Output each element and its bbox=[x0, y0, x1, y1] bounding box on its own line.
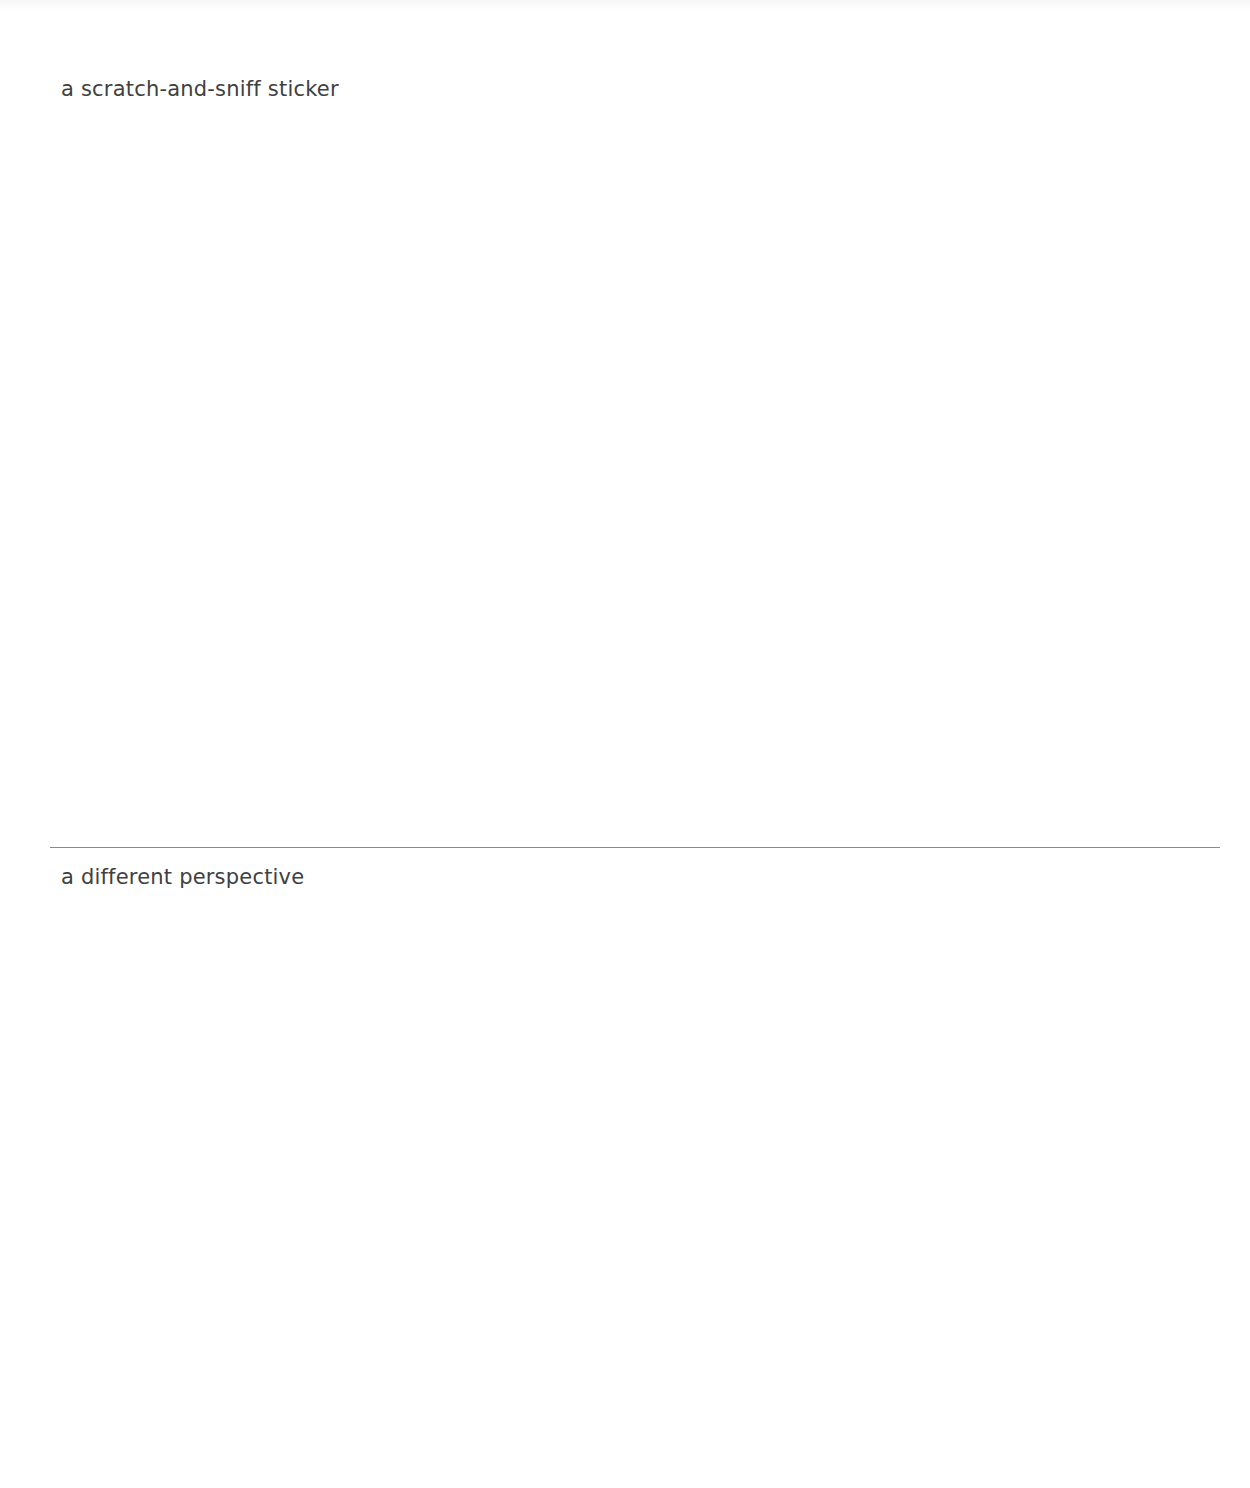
card-different-perspective: a different perspective bbox=[50, 849, 1220, 1488]
card-label: a different perspective bbox=[61, 867, 304, 888]
card-scratch-and-sniff: a scratch-and-sniff sticker bbox=[50, 0, 1220, 848]
section-divider bbox=[50, 847, 1220, 848]
card-label: a scratch-and-sniff sticker bbox=[61, 79, 339, 100]
card-blank-area bbox=[50, 120, 1220, 848]
card-blank-area bbox=[50, 909, 1220, 1488]
